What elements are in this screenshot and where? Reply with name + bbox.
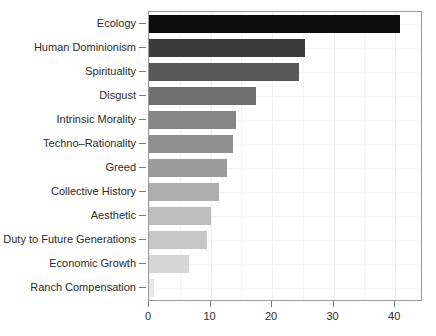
bar: [149, 159, 227, 177]
x-axis-tick-mark: [271, 301, 272, 307]
bar: [149, 279, 154, 297]
y-axis-tick-mark: [139, 167, 146, 168]
y-axis-tick-mark: [139, 119, 146, 120]
x-axis-tick-mark: [210, 301, 211, 307]
y-axis-tick-mark: [139, 23, 146, 24]
y-axis-tick-mark: [139, 47, 146, 48]
y-axis-tick-label: Ecology: [97, 17, 136, 29]
y-axis-tick-label: Spirituality: [85, 65, 136, 77]
y-axis-tick-mark: [139, 263, 146, 264]
bar: [149, 63, 299, 81]
x-axis-tick-mark: [394, 301, 395, 307]
y-axis-tick-label: Greed: [105, 161, 136, 173]
x-axis-tick-label: 30: [326, 310, 338, 322]
plot-panel: [148, 11, 422, 301]
x-axis-tick-label: 20: [265, 310, 277, 322]
y-axis-tick-mark: [139, 215, 146, 216]
y-axis-tick-mark: [139, 95, 146, 96]
gridline-vertical-minor: [364, 12, 365, 300]
bar: [149, 111, 236, 129]
bar: [149, 183, 219, 201]
bar: [149, 207, 211, 225]
y-axis-tick-mark: [139, 191, 146, 192]
y-axis-tick-label: Duty to Future Generations: [3, 233, 136, 245]
x-axis-tick-label: 0: [145, 310, 151, 322]
bar: [149, 87, 256, 105]
y-axis-tick-mark: [139, 71, 146, 72]
bar: [149, 135, 233, 153]
y-axis-tick-label: Disgust: [99, 89, 136, 101]
x-axis-tick-label: 10: [203, 310, 215, 322]
x-axis-tick-mark: [148, 301, 149, 307]
gridline-vertical-major: [395, 12, 396, 300]
x-axis-tick-label: 40: [388, 310, 400, 322]
x-axis-tick-mark: [333, 301, 334, 307]
gridline-horizontal: [149, 264, 421, 265]
bar-chart: EcologyHuman DominionismSpiritualityDisg…: [0, 0, 436, 336]
y-axis-tick-label: Intrinsic Morality: [57, 113, 136, 125]
y-axis-tick-mark: [139, 239, 146, 240]
y-axis-tick-label: Ranch Compensation: [30, 281, 136, 293]
bar: [149, 255, 189, 273]
y-axis: EcologyHuman DominionismSpiritualityDisg…: [0, 11, 148, 301]
x-axis: 010203040: [148, 301, 422, 336]
y-axis-tick-mark: [139, 143, 146, 144]
bar: [149, 39, 305, 57]
bar: [149, 231, 207, 249]
y-axis-tick-mark: [139, 287, 146, 288]
gridline-horizontal: [149, 288, 421, 289]
gridline-vertical-major: [334, 12, 335, 300]
y-axis-tick-label: Aesthetic: [91, 209, 136, 221]
y-axis-tick-label: Techno–Rationality: [43, 137, 136, 149]
y-axis-tick-label: Collective History: [51, 185, 136, 197]
y-axis-tick-label: Human Dominionism: [34, 41, 136, 53]
bar: [149, 15, 400, 33]
y-axis-tick-label: Economic Growth: [49, 257, 136, 269]
